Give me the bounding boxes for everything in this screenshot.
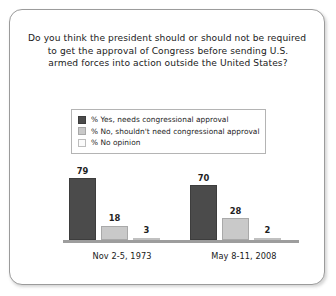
bar-no-opinion-1973: 3 [133,238,160,240]
bar-value-yes-1973: 79 [58,166,108,176]
bar-no-opinion-2008: 2 [254,238,281,240]
bar-group-2008: 70 28 2 [190,160,295,240]
bar-value-yes-2008: 70 [179,173,229,183]
x-axis-label-1973: Nov 2-5, 1973 [57,251,187,261]
plot-area: 79 18 3 70 28 [10,10,326,286]
x-axis-label-2008: May 8-11, 2008 [179,251,309,261]
bar-value-no-1973: 18 [90,213,140,223]
bar-value-no-2008: 28 [211,206,261,216]
x-axis-baseline [63,240,299,243]
bar-value-no-opinion-1973: 3 [122,225,172,235]
bar-wrap-yes-2008: 70 [190,160,217,240]
bar-value-no-opinion-2008: 2 [243,225,293,235]
bar-wrap-yes-1973: 79 [69,160,96,240]
bar-wrap-no-opinion-2008: 2 [254,160,281,240]
bar-yes-1973: 79 [69,178,96,240]
bar-wrap-no-opinion-1973: 3 [133,160,160,240]
chart-card: Do you think the president should or sho… [9,9,325,285]
bar-group-1973: 79 18 3 [69,160,174,240]
